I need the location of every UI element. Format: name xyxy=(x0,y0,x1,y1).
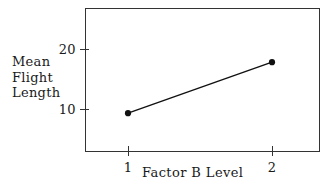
y-axis-title-line-1: Mean xyxy=(12,54,70,70)
x-axis-tick-label-2: 2 xyxy=(257,161,287,174)
x-axis-tick-2 xyxy=(272,146,273,156)
y-axis-title: Mean Flight Length xyxy=(12,54,70,101)
chart-figure: 20 10 1 2 Mean Flight Length Factor B Le… xyxy=(0,0,336,188)
y-axis-title-line-3: Length xyxy=(12,85,70,101)
y-axis-tick-20 xyxy=(80,49,89,50)
y-axis-tick-10 xyxy=(80,109,89,110)
plot-frame xyxy=(85,8,320,152)
x-axis-tick-1 xyxy=(128,146,129,156)
y-axis-title-line-2: Flight xyxy=(12,70,70,86)
x-axis-title: Factor B Level xyxy=(142,166,243,180)
x-axis-tick-label-1: 1 xyxy=(113,161,143,174)
y-axis-tick-label-10: 10 xyxy=(46,103,76,116)
